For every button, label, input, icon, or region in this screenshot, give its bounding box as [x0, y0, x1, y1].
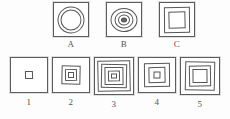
- stem-c-box: [159, 2, 195, 37]
- stem-a-box: [53, 2, 89, 37]
- option-figure-3[interactable]: 3: [94, 57, 134, 119]
- stem-b-circle-core: [121, 17, 127, 22]
- stem-b-box: [106, 2, 142, 37]
- stem-c-square-inner: [168, 11, 185, 28]
- option-2-box: [52, 57, 90, 93]
- option-2-label: 2: [69, 97, 74, 108]
- stem-a-label: A: [68, 39, 75, 50]
- stem-a-circle-inner: [60, 9, 81, 30]
- stem-figure-c[interactable]: C: [159, 2, 195, 54]
- option-3-label: 3: [112, 99, 117, 110]
- option-3-square-5: [111, 73, 117, 78]
- option-4-box: [138, 57, 176, 93]
- stem-c-label: C: [174, 39, 180, 50]
- option-5-box: [180, 57, 220, 95]
- option-figure-5[interactable]: 5: [180, 57, 220, 119]
- option-5-square-inner: [192, 69, 207, 83]
- figure-analogy-sheet: A B C 1: [0, 0, 230, 119]
- stem-figure-a[interactable]: A: [53, 2, 89, 54]
- option-1-box: [10, 57, 48, 93]
- option-figure-1[interactable]: 1: [10, 57, 48, 119]
- option-figure-2[interactable]: 2: [52, 57, 90, 119]
- option-3-box: [94, 57, 134, 95]
- option-row: 1 2 3: [0, 57, 230, 119]
- option-2-square-inner: [68, 72, 74, 78]
- option-figure-4[interactable]: 4: [138, 57, 176, 119]
- stem-b-label: B: [121, 39, 127, 50]
- stem-row: A B C: [0, 2, 230, 54]
- option-5-label: 5: [198, 99, 203, 110]
- option-4-square-inner: [153, 71, 160, 78]
- option-1-label: 1: [27, 97, 32, 108]
- option-4-label: 4: [155, 97, 160, 108]
- option-1-square-inner: [25, 71, 33, 79]
- stem-figure-b[interactable]: B: [106, 2, 142, 54]
